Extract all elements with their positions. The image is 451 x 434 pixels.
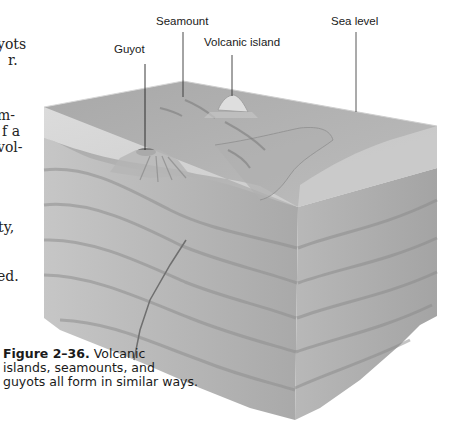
right-rock-face: [295, 168, 437, 420]
label-seamount: Seamount: [156, 15, 208, 27]
figure-caption: Figure 2–36. Volcanic islands, seamounts…: [3, 347, 198, 389]
caption-line-3: guyots all form in similar ways.: [3, 375, 198, 389]
figure-number: Figure 2–36.: [3, 346, 90, 361]
caption-line-2: islands, seamounts, and: [3, 361, 198, 375]
label-guyot: Guyot: [114, 43, 145, 55]
caption-line-1: Volcanic: [94, 346, 146, 361]
label-sea-level: Sea level: [331, 15, 378, 27]
label-volcanic-island: Volcanic island: [204, 36, 280, 48]
